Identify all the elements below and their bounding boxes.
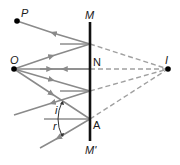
ray-O-upper bbox=[14, 44, 90, 69]
mirror-reflection-diagram: P O M N I A M' i r bbox=[0, 0, 180, 165]
label-P: P bbox=[21, 7, 29, 19]
virtual-rays bbox=[90, 44, 168, 119]
normals bbox=[44, 44, 90, 119]
label-M: M bbox=[85, 9, 95, 21]
ray-A-reflected bbox=[40, 119, 90, 148]
real-rays bbox=[14, 21, 90, 148]
point-O bbox=[11, 66, 17, 72]
virtual-ray-upper bbox=[90, 44, 168, 69]
point-P bbox=[14, 18, 20, 24]
label-I: I bbox=[165, 54, 168, 66]
label-M-prime: M' bbox=[85, 144, 97, 156]
label-r: r bbox=[53, 120, 58, 132]
label-A: A bbox=[93, 119, 101, 131]
ray-to-P bbox=[17, 21, 90, 44]
virtual-ray-lower bbox=[90, 69, 168, 91]
virtual-ray-A bbox=[90, 69, 168, 119]
label-N: N bbox=[93, 56, 101, 68]
label-i: i bbox=[55, 104, 58, 116]
ray-O-lower bbox=[14, 69, 90, 91]
point-I bbox=[165, 66, 171, 72]
label-O: O bbox=[10, 54, 19, 66]
